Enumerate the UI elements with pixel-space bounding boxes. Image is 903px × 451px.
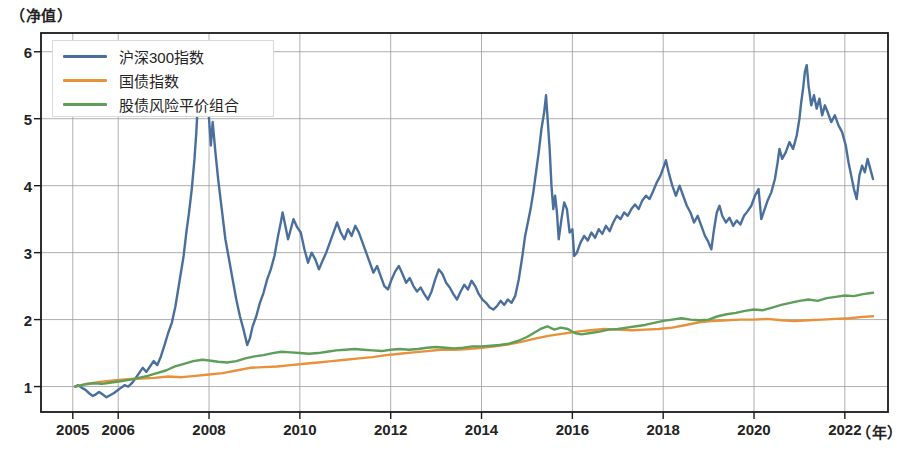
x-tick-2012: 2012 xyxy=(374,421,407,438)
y-tick-4: 4 xyxy=(6,177,32,194)
y-tick-2: 2 xyxy=(6,311,32,328)
x-tick-2022: 2022 xyxy=(828,421,861,438)
legend-label-riskparity: 股债风险平价组合 xyxy=(119,94,239,115)
x-tick-2018: 2018 xyxy=(647,421,680,438)
y-tick-5: 5 xyxy=(6,110,32,127)
legend-swatch-riskparity xyxy=(63,103,107,106)
series-line-股债风险平价组合 xyxy=(75,293,873,387)
x-tick-2014: 2014 xyxy=(465,421,498,438)
legend-label-bond: 国债指数 xyxy=(119,70,179,91)
x-tick-2010: 2010 xyxy=(283,421,316,438)
x-tick-2020: 2020 xyxy=(737,421,770,438)
legend-item-1[interactable]: 国债指数 xyxy=(63,69,179,91)
legend-item-0[interactable]: 沪深300指数 xyxy=(63,45,204,67)
series-line-国债指数 xyxy=(75,316,873,386)
chart-legend: 沪深300指数 国债指数 股债风险平价组合 xyxy=(52,40,274,117)
x-tick-2005: 2005 xyxy=(56,421,89,438)
legend-swatch-bond xyxy=(63,79,107,82)
y-tick-1: 1 xyxy=(6,378,32,395)
y-tick-3: 3 xyxy=(6,244,32,261)
x-tick-2006: 2006 xyxy=(102,421,135,438)
legend-item-2[interactable]: 股债风险平价组合 xyxy=(63,93,239,115)
legend-label-hs300: 沪深300指数 xyxy=(119,46,204,67)
x-tick-2008: 2008 xyxy=(192,421,225,438)
y-tick-6: 6 xyxy=(6,43,32,60)
legend-swatch-hs300 xyxy=(63,55,107,58)
x-tick-2016: 2016 xyxy=(556,421,589,438)
